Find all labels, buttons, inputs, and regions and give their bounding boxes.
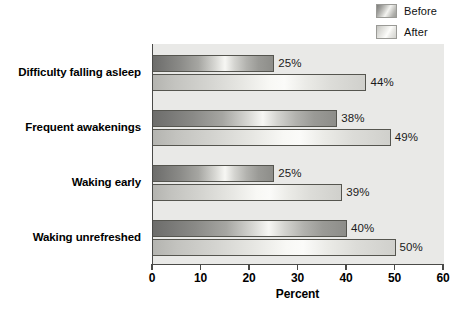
bar-chart-figure: Before After Difficulty falling asleepFr… — [0, 0, 463, 309]
x-tick-label-0: 0 — [137, 271, 167, 285]
x-tick-mark-30 — [297, 264, 299, 270]
x-tick-mark-0 — [151, 264, 153, 270]
x-axis: 0102030405060 — [0, 0, 463, 309]
x-tick-label-40: 40 — [331, 271, 361, 285]
x-tick-mark-50 — [394, 264, 396, 270]
x-tick-label-10: 10 — [186, 271, 216, 285]
x-tick-mark-60 — [442, 264, 444, 270]
x-tick-label-60: 60 — [428, 271, 458, 285]
x-tick-label-50: 50 — [380, 271, 410, 285]
x-tick-label-20: 20 — [234, 271, 264, 285]
x-tick-mark-20 — [248, 264, 250, 270]
x-tick-mark-10 — [200, 264, 202, 270]
x-tick-label-30: 30 — [283, 271, 313, 285]
x-axis-title: Percent — [152, 287, 443, 301]
x-tick-mark-40 — [345, 264, 347, 270]
